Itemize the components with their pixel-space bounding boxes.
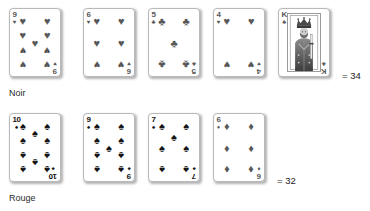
clubs-icon: ♣ [322, 61, 326, 67]
card-index-top-left: 7♠ [152, 116, 156, 130]
playing-card-k-clubs[interactable]: K♣K♣ [278, 8, 330, 77]
row-sum-rouge: = 32 [277, 175, 296, 186]
diamonds-pip-icon: ♦ [248, 163, 254, 174]
spades-pip-icon: ♠ [20, 135, 26, 146]
spades-pip-icon: ♠ [94, 163, 100, 174]
clubs-pip-icon: ♣ [183, 58, 190, 69]
card-index-bottom-right: 4♥ [257, 61, 261, 75]
clubs-pip-icon: ♣ [158, 58, 165, 69]
card-rank: 9 [127, 171, 131, 179]
spades-pip-icon: ♠ [159, 142, 165, 153]
spades-icon: ♠ [87, 124, 90, 130]
hearts-pip-icon: ♥ [118, 37, 125, 48]
card-row-noir: 9♥9♥♥♥♥♥♥♥♥♥♥6♥6♥♥♥♥♥♥♥5♣5♣♣♣♣♣♣4♥4♥♥♥♥♥… [0, 0, 370, 80]
diamonds-icon: ♦ [217, 124, 220, 130]
diamonds-pip-icon: ♦ [224, 163, 230, 174]
playing-card-6-hearts[interactable]: 6♥6♥♥♥♥♥♥♥ [83, 8, 135, 77]
card-rank: 7 [192, 171, 196, 179]
card-pip-area: ♠♠♠♠♠♠♠ [158, 118, 190, 177]
hearts-pip-icon: ♥ [20, 58, 27, 69]
hearts-pip-icon: ♥ [94, 58, 101, 69]
card-pip-area: ♥♥♥♥ [223, 13, 255, 72]
spades-pip-icon: ♠ [32, 128, 38, 139]
spades-pip-icon: ♠ [44, 121, 50, 132]
card-row-rouge-cards: 10♠10♠♠♠♠♠♠♠♠♠♠♠9♠9♠♠♠♠♠♠♠♠♠♠7♠7♠♠♠♠♠♠♠♠… [0, 105, 370, 185]
hearts-pip-icon: ♥ [20, 44, 27, 55]
hearts-pip-icon: ♥ [118, 58, 125, 69]
diamonds-pip-icon: ♦ [224, 142, 230, 153]
hearts-icon: ♥ [13, 19, 17, 25]
spades-pip-icon: ♠ [106, 142, 112, 153]
card-index-top-left: 6♥ [87, 11, 91, 25]
clubs-icon: ♣ [282, 19, 286, 25]
card-pip-area: ♣♣♣♣♣ [158, 13, 190, 72]
clubs-icon: ♣ [152, 19, 156, 25]
spades-pip-icon: ♠ [94, 135, 100, 146]
card-index-bottom-right: 6♥ [127, 61, 131, 75]
spades-pip-icon: ♠ [171, 131, 177, 142]
card-row-noir-cards: 9♥9♥♥♥♥♥♥♥♥♥♥6♥6♥♥♥♥♥♥♥5♣5♣♣♣♣♣♣4♥4♥♥♥♥♥… [0, 0, 370, 80]
playing-card-7-spades[interactable]: 7♠7♠♠♠♠♠♠♠♠ [148, 113, 200, 182]
spades-icon: ♠ [52, 166, 55, 172]
spades-pip-icon: ♠ [32, 156, 38, 167]
playing-card-9-spades[interactable]: 9♠9♠♠♠♠♠♠♠♠♠♠ [83, 113, 135, 182]
card-pip-area: ♦♦♦♦♦♦ [223, 118, 255, 177]
hearts-pip-icon: ♥ [44, 44, 51, 55]
card-index-bottom-right: 7♠ [192, 166, 196, 180]
spades-pip-icon: ♠ [94, 121, 100, 132]
card-pip-area: ♠♠♠♠♠♠♠♠♠♠ [19, 118, 51, 177]
hearts-icon: ♥ [258, 61, 262, 67]
diamonds-pip-icon: ♦ [248, 142, 254, 153]
hearts-pip-icon: ♥ [20, 16, 27, 27]
card-index-top-left: 5♣ [152, 11, 156, 25]
card-pip-area: ♥♥♥♥♥♥ [93, 13, 125, 72]
hearts-pip-icon: ♥ [94, 16, 101, 27]
hearts-icon: ♥ [54, 61, 58, 67]
spades-icon: ♠ [193, 166, 196, 172]
playing-card-4-hearts[interactable]: 4♥4♥♥♥♥♥ [213, 8, 265, 77]
hearts-pip-icon: ♥ [44, 16, 51, 27]
card-index-top-left: 9♥ [13, 11, 17, 25]
card-index-bottom-right: 9♥ [53, 61, 57, 75]
card-rank: 6 [127, 66, 131, 74]
playing-card-9-hearts[interactable]: 9♥9♥♥♥♥♥♥♥♥♥♥ [9, 8, 61, 77]
card-index-bottom-right: K♣ [321, 61, 326, 75]
hearts-pip-icon: ♥ [224, 16, 231, 27]
row-label-rouge: Rouge [9, 193, 36, 203]
hearts-icon: ♥ [87, 19, 91, 25]
card-rank: 5 [192, 66, 196, 74]
card-index-top-left: 4♥ [217, 11, 221, 25]
card-rank: 4 [257, 66, 261, 74]
playing-card-10-spades[interactable]: 10♠10♠♠♠♠♠♠♠♠♠♠♠ [9, 113, 61, 182]
card-pip-area: ♥♥♥♥♥♥♥♥♥ [19, 13, 51, 72]
hearts-pip-icon: ♥ [44, 30, 51, 41]
hearts-pip-icon: ♥ [94, 37, 101, 48]
spades-pip-icon: ♠ [183, 163, 189, 174]
hearts-icon: ♥ [217, 19, 221, 25]
hearts-pip-icon: ♥ [44, 58, 51, 69]
playing-card-6-diamonds[interactable]: 6♦6♦♦♦♦♦♦♦ [213, 113, 265, 182]
spades-pip-icon: ♠ [20, 163, 26, 174]
hearts-pip-icon: ♥ [248, 58, 255, 69]
spades-pip-icon: ♠ [94, 149, 100, 160]
hearts-pip-icon: ♥ [32, 37, 39, 48]
spades-pip-icon: ♠ [118, 121, 124, 132]
card-rank: 6 [257, 171, 261, 179]
spades-pip-icon: ♠ [20, 121, 26, 132]
card-rank: K [321, 66, 326, 74]
hearts-pip-icon: ♥ [248, 16, 255, 27]
playing-card-5-clubs[interactable]: 5♣5♣♣♣♣♣♣ [148, 8, 200, 77]
clubs-pip-icon: ♣ [158, 16, 165, 27]
hearts-icon: ♥ [128, 61, 132, 67]
card-index-top-left: 6♦ [217, 116, 221, 130]
spades-pip-icon: ♠ [159, 163, 165, 174]
spades-pip-icon: ♠ [183, 142, 189, 153]
spades-icon: ♠ [15, 124, 18, 130]
spades-icon: ♠ [152, 124, 155, 130]
card-index-bottom-right: 9♠ [127, 166, 131, 180]
row-sum-noir: = 34 [342, 70, 361, 81]
card-row-rouge: 10♠10♠♠♠♠♠♠♠♠♠♠♠9♠9♠♠♠♠♠♠♠♠♠♠7♠7♠♠♠♠♠♠♠♠… [0, 105, 370, 185]
spades-pip-icon: ♠ [159, 121, 165, 132]
spades-pip-icon: ♠ [44, 149, 50, 160]
spades-pip-icon: ♠ [118, 135, 124, 146]
